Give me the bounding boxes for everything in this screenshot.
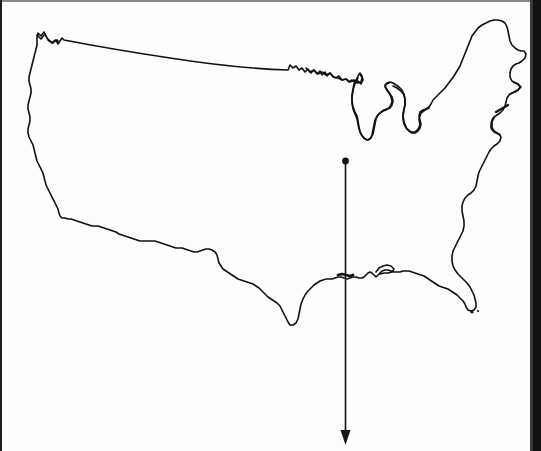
map-page: Outline map of the contiguous United Sta… bbox=[0, 0, 541, 451]
scan-edge-left bbox=[0, 0, 2, 451]
us-map-svg bbox=[0, 0, 541, 451]
scan-edge-top bbox=[0, 0, 541, 2]
scan-edge-right bbox=[533, 0, 541, 451]
florida-keys-dot-2 bbox=[477, 310, 479, 312]
us-outline-map-figure bbox=[0, 0, 541, 451]
florida-keys-dot bbox=[470, 310, 473, 313]
nw-island-dot bbox=[55, 39, 59, 43]
